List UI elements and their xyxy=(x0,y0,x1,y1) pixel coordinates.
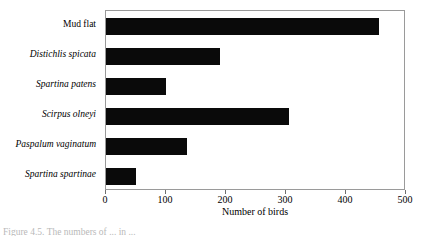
y-axis-label: Distichlis spicata xyxy=(0,49,101,59)
x-axis-tick-label: 400 xyxy=(338,194,353,206)
y-axis-label: Paspalum vaginatum xyxy=(0,139,101,149)
x-axis-tick-label: 100 xyxy=(158,194,173,206)
y-axis-label: Mud flat xyxy=(0,19,101,29)
bar-row xyxy=(106,11,404,41)
x-axis-tick-label: 500 xyxy=(398,194,413,206)
x-axis-tick-label: 300 xyxy=(278,194,293,206)
x-axis-tick-label: 0 xyxy=(103,194,108,206)
y-axis-label: Spartina spartinae xyxy=(0,169,101,179)
figure-root: Mud flatDistichlis spicataSpartina paten… xyxy=(0,0,429,236)
bar-row xyxy=(106,131,404,161)
bar xyxy=(106,48,220,65)
y-axis-label: Spartina patens xyxy=(0,79,101,89)
bar xyxy=(106,138,187,155)
bar xyxy=(106,168,136,185)
bar-row xyxy=(106,71,404,101)
bar xyxy=(106,108,289,125)
bar xyxy=(106,18,379,35)
bar-row xyxy=(106,161,404,191)
bar-row xyxy=(106,101,404,131)
bar xyxy=(106,78,166,95)
figure-caption: Figure 4.5. The numbers of ... in ... xyxy=(3,227,423,236)
x-axis-title: Number of birds xyxy=(105,206,405,218)
x-axis-tick-label: 200 xyxy=(218,194,233,206)
plot-area xyxy=(105,10,405,190)
y-axis-category-labels: Mud flatDistichlis spicataSpartina paten… xyxy=(0,10,101,190)
y-axis-label: Scirpus olneyi xyxy=(0,109,101,119)
bar-row xyxy=(106,41,404,71)
x-axis-ticks: 0100200300400500 xyxy=(105,190,405,206)
